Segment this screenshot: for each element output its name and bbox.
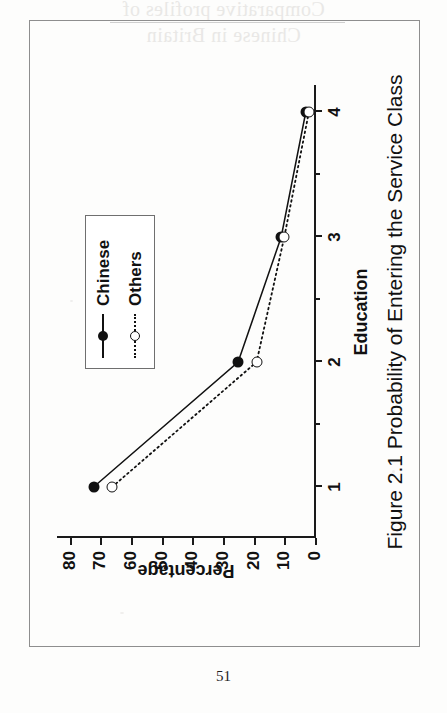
y-axis-title: Percentage: [137, 559, 234, 580]
figure-rotated-90ccw: 1 2 3 4 0 10 20 30 40 50 60 70 80 Educat…: [39, 33, 409, 633]
data-point-chinese-1: [88, 481, 99, 492]
y-tick-30: [223, 538, 225, 545]
x-tick-label-1: 1: [325, 482, 345, 491]
page-number: 51: [0, 668, 447, 685]
y-tick-label-70: 70: [90, 551, 110, 570]
legend-item-chinese: Chinese: [86, 216, 120, 368]
y-tick-50: [162, 538, 164, 545]
scanned-page: Comparative profiles of Chinese in Brita…: [0, 0, 447, 713]
y-tick-40: [192, 538, 194, 545]
data-point-others-3: [278, 231, 289, 242]
y-tick-20: [254, 538, 256, 545]
x-tick-minor: [315, 298, 320, 300]
open-circle-icon: [130, 331, 140, 341]
legend-label-others: Others: [126, 251, 146, 306]
y-tick-80: [70, 538, 72, 545]
x-tick-3: [315, 235, 322, 237]
x-tick-label-4: 4: [325, 107, 345, 116]
data-point-chinese-2: [232, 356, 243, 367]
legend-item-others: Others: [118, 216, 152, 368]
x-tick-4: [315, 110, 322, 112]
filled-circle-icon: [98, 331, 108, 341]
x-tick-minor: [315, 173, 320, 175]
y-tick-label-0: 0: [305, 551, 325, 560]
y-tick-60: [131, 538, 133, 545]
figure-caption: Figure 2.1 Probability of Entering the S…: [383, 74, 407, 549]
y-tick-0: [315, 538, 317, 545]
data-point-others-1: [106, 481, 117, 492]
y-tick-10: [284, 538, 286, 545]
x-tick-2: [315, 360, 322, 362]
y-tick-label-80: 80: [60, 551, 80, 570]
data-point-others-4: [303, 106, 314, 117]
y-tick-70: [100, 538, 102, 545]
x-tick-1: [315, 485, 322, 487]
plot-area: Chinese Others: [57, 85, 315, 537]
legend-box: Chinese Others: [85, 215, 155, 369]
bleed-through-running-head-line1: Comparative profiles of: [0, 0, 447, 21]
x-tick-minor: [315, 423, 320, 425]
x-tick-label-2: 2: [325, 357, 345, 366]
data-point-others-2: [251, 356, 262, 367]
y-tick-label-20: 20: [244, 551, 264, 570]
x-axis-title: Education: [351, 268, 372, 355]
legend-label-chinese: Chinese: [94, 239, 114, 305]
x-tick-label-3: 3: [325, 232, 345, 241]
y-tick-label-10: 10: [274, 551, 294, 570]
